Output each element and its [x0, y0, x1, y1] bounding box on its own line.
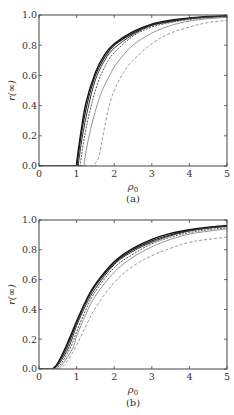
y-tick-label: 0.8: [22, 244, 37, 255]
x-tick-label: 3: [149, 168, 155, 179]
series-group: [39, 16, 227, 167]
y-tick-label: 1.0: [22, 9, 37, 20]
panel-caption: (a): [126, 193, 140, 204]
series-line-curve-6: [39, 20, 227, 166]
x-tick-label: 1: [74, 371, 80, 382]
panel-b: 0123450.00.20.40.60.81.0ρ0r(∞)(b): [6, 214, 230, 408]
x-tick-label: 4: [186, 168, 192, 179]
series-line-curve-2: [39, 226, 227, 369]
x-tick-label: 5: [224, 168, 230, 179]
x-tick-label: 1: [74, 168, 80, 179]
y-axis-label: r(∞): [6, 284, 17, 305]
x-tick-label: 4: [186, 371, 192, 382]
panel-a: 0123450.00.20.40.60.81.0ρ0r(∞)(a): [6, 9, 230, 204]
series-line-curve-2: [39, 16, 227, 166]
y-tick-label: 0.0: [22, 363, 37, 374]
x-tick-label: 5: [224, 371, 230, 382]
x-tick-label: 3: [149, 371, 155, 382]
panel-caption: (b): [126, 397, 140, 408]
series-line-curve-4: [39, 17, 227, 166]
series-line-curve-1: [39, 16, 227, 167]
figure: 0123450.00.20.40.60.81.0ρ0r(∞)(a) 012345…: [0, 0, 234, 415]
y-tick-label: 0.0: [22, 160, 37, 171]
y-axis-label: r(∞): [6, 80, 17, 101]
plot-frame: [39, 15, 227, 166]
y-tick-label: 0.2: [22, 334, 37, 345]
y-tick-label: 1.0: [22, 214, 37, 225]
y-tick-label: 0.8: [22, 40, 37, 51]
y-tick-label: 0.4: [22, 100, 37, 111]
y-tick-label: 0.2: [22, 130, 37, 141]
series-line-curve-5: [39, 17, 227, 166]
y-tick-label: 0.4: [22, 304, 37, 315]
series-group: [39, 226, 227, 370]
y-tick-label: 0.6: [22, 274, 37, 285]
x-tick-label: 2: [111, 371, 117, 382]
series-line-curve-3: [39, 17, 227, 167]
y-tick-label: 0.6: [22, 70, 37, 81]
x-tick-label: 2: [111, 168, 117, 179]
x-axis-label: ρ0: [127, 384, 138, 397]
